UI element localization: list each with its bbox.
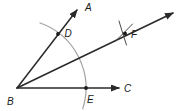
point-D-dot	[56, 32, 60, 36]
point-F-dot	[123, 32, 127, 36]
label-C: C	[124, 83, 132, 94]
label-F: F	[131, 29, 138, 40]
diagram-canvas: A B C D E F	[0, 0, 181, 111]
point-E-dot	[84, 86, 88, 90]
bisector-ray-BF	[17, 13, 173, 88]
ray-BA	[17, 10, 77, 88]
geometry-diagram: A B C D E F	[0, 0, 181, 111]
label-D: D	[65, 28, 72, 39]
label-E: E	[87, 94, 94, 105]
label-B: B	[7, 96, 14, 107]
label-A: A	[84, 2, 92, 13]
